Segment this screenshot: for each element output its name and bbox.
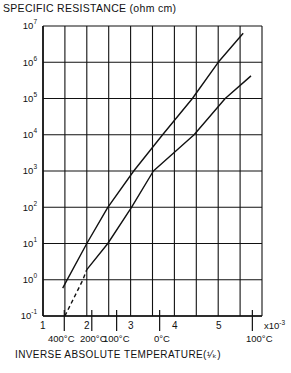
y-tick-label: 100 [7,273,37,285]
y-tick-label: 102 [7,201,37,213]
temp-label: 100°C [103,333,130,344]
y-tick-label: 10-1 [7,309,37,321]
x-tick-label: 3 [128,320,134,331]
y-tick-label: 104 [7,128,37,140]
temp-label: 100°C [246,333,273,344]
x-tick-label: 5 [216,320,222,331]
resistance-curve [87,76,251,270]
x-multiplier-label: x10-3 [264,319,285,331]
x-tick-label: 2 [84,320,90,331]
y-tick-label: 106 [7,56,37,68]
temp-label: 0°C [154,333,170,344]
y-tick-label: 105 [7,92,37,104]
x-tick-label: 1 [40,320,46,331]
x-tick-label: 4 [172,320,178,331]
y-tick-label: 107 [7,19,37,31]
x-axis-title: INVERSE ABSOLUTE TEMPERATURE(¹⁄ₖ) [15,349,221,360]
temp-label: 400°C [48,333,75,344]
plot-area [0,0,291,373]
y-tick-label: 101 [7,237,37,249]
y-tick-label: 103 [7,164,37,176]
